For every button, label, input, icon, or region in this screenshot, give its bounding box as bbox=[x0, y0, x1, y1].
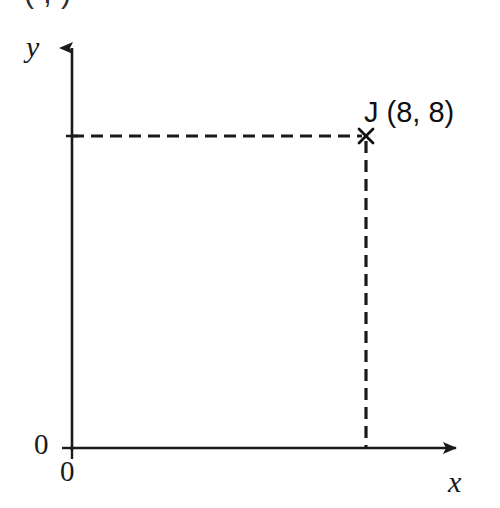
point-label-j: J (8, 8) bbox=[364, 98, 454, 127]
diagram-canvas: ( , ) y x bbox=[0, 0, 500, 508]
x-axis-label: x bbox=[448, 467, 461, 497]
origin-label-y-axis: 0 bbox=[34, 430, 49, 459]
y-axis-label: y bbox=[26, 32, 39, 62]
origin-label-x-axis: 0 bbox=[60, 457, 75, 486]
coordinate-plane-graphic bbox=[0, 0, 500, 508]
